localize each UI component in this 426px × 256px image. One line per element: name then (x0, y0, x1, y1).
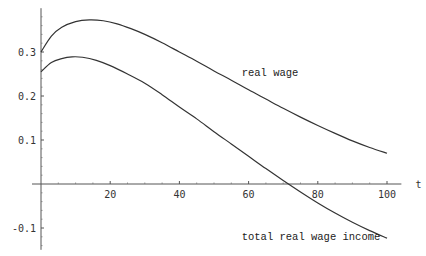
y-tick-label: 0.2 (18, 91, 36, 102)
x-tick-label: 80 (312, 189, 324, 200)
minor-ticks (41, 17, 370, 246)
y-tick-label: 0.3 (18, 47, 36, 58)
x-tick-label: 40 (173, 189, 185, 200)
x-tick-label: 60 (243, 189, 255, 200)
series-line-real-wage (41, 20, 387, 153)
axes: 20406080100 -0.10.10.20.3 t (12, 8, 422, 250)
series-layer (41, 20, 387, 238)
x-tick-label: 100 (378, 189, 396, 200)
line-chart: 20406080100 -0.10.10.20.3 t real wagetot… (0, 0, 426, 256)
x-axis-label: t (415, 179, 421, 190)
annotation-layer: real wagetotal real wage income (242, 67, 381, 243)
annotation-real-wage: real wage (242, 67, 299, 79)
y-ticks: -0.10.10.20.3 (12, 47, 44, 234)
annotation-total-real-wage-income: total real wage income (242, 231, 381, 243)
y-tick-label: 0.1 (18, 135, 36, 146)
y-tick-label: -0.1 (12, 223, 36, 234)
x-tick-label: 20 (104, 189, 116, 200)
series-line-total-real-wage-income (41, 57, 387, 238)
